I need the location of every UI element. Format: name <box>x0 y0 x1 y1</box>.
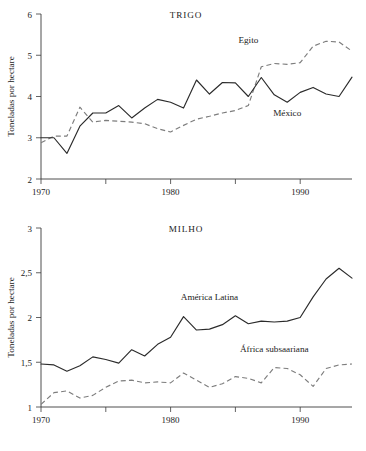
milho-y-axis-title: Toneladas por hectare <box>6 277 16 357</box>
trigo-ytick-labels: 6 5 4 3 2 <box>28 10 33 185</box>
trigo-y-axis-title: Toneladas por hectare <box>6 56 16 136</box>
milho-ytick-label-1-5: 1,5 <box>21 358 33 368</box>
trigo-ytick-label-6: 6 <box>28 10 33 20</box>
milho-ytick-labels: 3 2,5 2 1,5 1 <box>21 224 33 413</box>
trigo-xtick-label-1990: 1990 <box>291 187 310 197</box>
trigo-xtick-label-1980: 1980 <box>162 187 181 197</box>
milho-chart-title: MILHO <box>169 224 204 234</box>
trigo-annotation-mexico: México <box>273 108 301 118</box>
milho-series-africa-line <box>41 364 352 404</box>
milho-annotation-africa-subsaariana: África subsaariana <box>240 344 309 354</box>
trigo-chart-title: TRIGO <box>170 10 203 20</box>
milho-annotation-america-latina: América Latina <box>181 292 238 302</box>
trigo-xtick-label-1970: 1970 <box>32 187 51 197</box>
trigo-annotation-egito: Egito <box>238 35 258 45</box>
trigo-ytick-label-3: 3 <box>28 133 33 143</box>
milho-xtick-label-1970: 1970 <box>32 415 51 425</box>
milho-xtick-label-1990: 1990 <box>291 415 310 425</box>
milho-xtick-labels: 1970 1980 1990 <box>32 415 310 425</box>
milho-ytick-label-3: 3 <box>28 224 33 234</box>
milho-axes <box>36 228 352 412</box>
trigo-axes <box>36 14 352 184</box>
trigo-ytick-label-5: 5 <box>28 51 33 61</box>
two-panel-line-chart-figure: 6 5 4 3 2 1970 1980 1990 Toneladas por h… <box>0 0 366 451</box>
milho-ytick-label-1: 1 <box>28 403 33 413</box>
trigo-series-egito-line <box>41 41 352 142</box>
milho-svg: 3 2,5 2 1,5 1 1970 1980 1990 Toneladas p… <box>0 218 366 451</box>
chart-panel-milho: 3 2,5 2 1,5 1 1970 1980 1990 Toneladas p… <box>0 218 366 451</box>
milho-series-america-latina-line <box>41 268 352 371</box>
milho-ytick-label-2: 2 <box>28 313 33 323</box>
trigo-ytick-label-2: 2 <box>28 175 33 185</box>
trigo-xtick-labels: 1970 1980 1990 <box>32 187 310 197</box>
chart-panel-trigo: 6 5 4 3 2 1970 1980 1990 Toneladas por h… <box>0 0 366 212</box>
trigo-ytick-label-4: 4 <box>28 92 33 102</box>
milho-xtick-label-1980: 1980 <box>162 415 181 425</box>
trigo-svg: 6 5 4 3 2 1970 1980 1990 Toneladas por h… <box>0 0 366 212</box>
milho-ytick-label-2-5: 2,5 <box>21 268 33 278</box>
